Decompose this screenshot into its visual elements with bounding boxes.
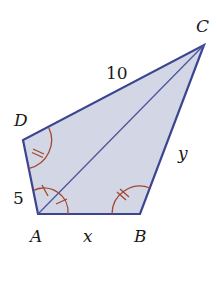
side-label-bc: y — [177, 143, 188, 163]
quadrilateral-diagram: C D A B 10 5 x y — [0, 0, 217, 281]
vertex-label-c: C — [196, 16, 209, 36]
side-label-dc: 10 — [106, 63, 128, 83]
vertex-label-b: B — [133, 226, 147, 246]
vertex-label-a: A — [28, 226, 42, 246]
vertex-label-d: D — [13, 110, 28, 130]
side-label-ad: 5 — [13, 188, 24, 208]
side-label-ab: x — [83, 226, 93, 246]
